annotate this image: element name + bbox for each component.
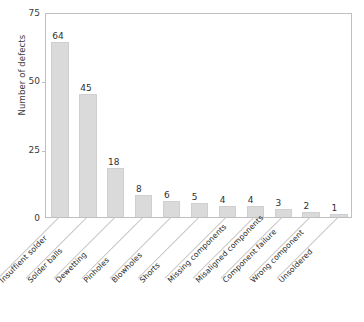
x-axis-leader-line [0, 217, 59, 279]
x-axis-leader-line [249, 217, 311, 279]
x-axis-category-label: Blowholes [110, 250, 144, 284]
bar: 4 [219, 206, 236, 217]
x-axis-leader-line [137, 217, 199, 279]
x-axis-category-label: Missing components [165, 222, 228, 285]
x-axis-leader-line [53, 217, 115, 279]
bar-column: 18 [107, 12, 124, 217]
x-axis-category-label: Insuffient solder [0, 233, 49, 284]
bar-value-label: 64 [52, 32, 63, 41]
bar: 6 [163, 201, 180, 217]
x-axis-category-label: Pinholes [82, 255, 111, 284]
bar-value-label: 4 [220, 196, 226, 205]
x-axis-leader-line [25, 217, 87, 279]
bar-column: 1 [330, 12, 347, 217]
x-axis-leader-line [81, 217, 143, 279]
bar-value-label: 2 [303, 202, 309, 211]
bar-value-label: 45 [80, 84, 91, 93]
bar: 18 [107, 168, 124, 217]
bar: 5 [191, 203, 208, 217]
x-axis-category-label: Component failure [221, 227, 278, 284]
x-axis-category-label: Solder balls [26, 246, 65, 285]
bar: 8 [135, 195, 152, 217]
x-axis-leader-line [221, 217, 283, 279]
x-axis-category-label: Unsoldered [277, 247, 314, 284]
figure-caption [45, 314, 355, 322]
x-axis-leader-line [193, 217, 255, 279]
bar-column: 8 [135, 12, 152, 217]
chart-figure: Number of defects 0255075 64451886544321… [0, 0, 364, 322]
bar-column: 64 [51, 12, 68, 217]
y-axis-tick-label: 50 [12, 76, 40, 86]
bar-value-label: 5 [192, 193, 198, 202]
bar-column: 4 [219, 12, 236, 217]
bar: 3 [275, 209, 292, 217]
bar: 45 [79, 94, 96, 217]
bar-column: 5 [191, 12, 208, 217]
bar: 2 [302, 212, 319, 217]
x-axis-leader-line [109, 217, 171, 279]
bar: 64 [51, 42, 68, 217]
bar-value-label: 4 [248, 196, 254, 205]
y-axis-title: Number of defects [17, 5, 27, 145]
x-axis-leader-line [277, 217, 339, 279]
plot-area: 64451886544321 [45, 13, 352, 218]
bar-value-label: 6 [164, 191, 170, 200]
bar: 1 [330, 214, 347, 217]
bar-column: 45 [79, 12, 96, 217]
y-axis-tick-label: 0 [12, 213, 40, 223]
y-axis-tick-mark [42, 151, 46, 152]
bar: 4 [247, 206, 264, 217]
bar-value-label: 3 [276, 199, 282, 208]
x-axis-category-label: Wrong component [249, 228, 306, 285]
x-axis-category-label: Misaligned components [193, 213, 264, 284]
bar-value-label: 8 [136, 185, 142, 194]
bar-value-label: 18 [108, 158, 119, 167]
y-axis-tick-mark [42, 82, 46, 83]
bar-column: 2 [302, 12, 319, 217]
bar-column: 3 [275, 12, 292, 217]
x-axis-category-label: Shorts [138, 260, 162, 284]
y-axis-tick-label: 75 [12, 8, 40, 18]
x-axis-category-label: Dewetting [54, 250, 89, 285]
bar-column: 6 [163, 12, 180, 217]
bar-column: 4 [247, 12, 264, 217]
bar-value-label: 1 [331, 204, 337, 213]
y-axis-tick-label: 25 [12, 145, 40, 155]
x-axis-leader-line [165, 217, 227, 279]
